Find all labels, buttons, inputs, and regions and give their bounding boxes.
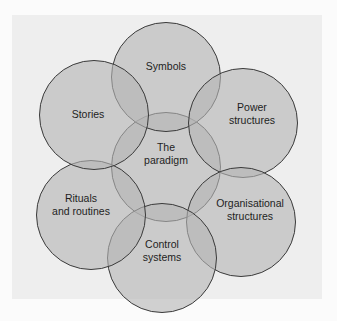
label-line: Symbols [146,60,186,72]
label-control: Controlsystems [143,238,182,263]
label-stories: Stories [72,108,105,120]
label-line: systems [143,251,182,263]
cultural-web-diagram: TheparadigmSymbolsPowerstructuresOrganis… [0,0,337,321]
label-line: Power [237,101,267,113]
label-line: structures [227,210,273,222]
label-line: The [157,141,175,153]
label-line: Stories [72,108,105,120]
label-line: paradigm [144,154,188,166]
label-line: Organisational [216,197,284,209]
label-line: and routines [52,205,110,217]
label-symbols: Symbols [146,60,186,72]
label-line: Control [145,238,179,250]
label-line: Rituals [65,192,97,204]
label-line: structures [229,114,275,126]
